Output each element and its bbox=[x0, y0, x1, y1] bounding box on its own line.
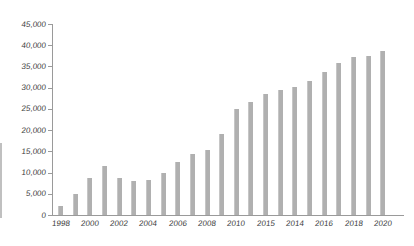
y-axis-label: 30,000 bbox=[2, 83, 47, 92]
y-axis-label: 10,000 bbox=[2, 168, 47, 177]
bar-2015 bbox=[307, 81, 312, 215]
x-axis-label: 2015 bbox=[250, 219, 281, 228]
y-axis-label: 35,000 bbox=[2, 62, 47, 71]
bar-2011 bbox=[248, 102, 253, 215]
y-axis-tick bbox=[48, 109, 52, 110]
y-axis-tick bbox=[48, 45, 52, 46]
x-axis-label: 2000 bbox=[74, 219, 105, 228]
y-axis-tick bbox=[48, 194, 52, 195]
x-axis-label: 2008 bbox=[192, 219, 223, 228]
y-axis-tick bbox=[48, 24, 52, 25]
y-axis-label: 20,000 bbox=[2, 126, 47, 135]
y-axis-label: 25,000 bbox=[2, 104, 47, 113]
bar-2009 bbox=[219, 134, 224, 215]
bar-2014 bbox=[292, 87, 297, 215]
bar-2000 bbox=[87, 178, 92, 215]
plot-area bbox=[52, 24, 404, 216]
bar-2019 bbox=[366, 56, 371, 215]
x-axis-label: 2018 bbox=[338, 219, 369, 228]
x-axis-label: 2016 bbox=[309, 219, 340, 228]
y-axis-tick bbox=[48, 151, 52, 152]
bar-2018 bbox=[351, 57, 356, 215]
y-axis-label: 5,000 bbox=[2, 189, 47, 198]
bar-2001 bbox=[102, 166, 107, 215]
bar-2017 bbox=[336, 63, 341, 215]
y-axis-label: 40,000 bbox=[2, 41, 47, 50]
bar-2012 bbox=[263, 94, 268, 215]
x-axis-label: 2002 bbox=[104, 219, 135, 228]
y-axis-label: 0 bbox=[2, 211, 47, 220]
x-axis-label: 2010 bbox=[221, 219, 252, 228]
x-axis-label: 2006 bbox=[162, 219, 193, 228]
bar-2008 bbox=[205, 150, 210, 215]
bar-2002 bbox=[117, 178, 122, 215]
x-axis-label: 2004 bbox=[133, 219, 164, 228]
y-axis-label: 45,000 bbox=[2, 20, 47, 29]
bar-2003 bbox=[131, 181, 136, 215]
y-axis-label: 15,000 bbox=[2, 147, 47, 156]
y-axis-tick bbox=[48, 66, 52, 67]
bar-2006 bbox=[175, 162, 180, 215]
y-axis-tick bbox=[48, 215, 52, 216]
y-axis-tick bbox=[48, 88, 52, 89]
x-axis-label: 2020 bbox=[367, 219, 398, 228]
x-axis-label: 2014 bbox=[279, 219, 310, 228]
bar-1999 bbox=[73, 194, 78, 215]
y-axis-tick bbox=[48, 173, 52, 174]
bar-2016 bbox=[322, 72, 327, 215]
bar-2004 bbox=[146, 180, 151, 215]
y-axis-tick bbox=[48, 130, 52, 131]
bar-2020 bbox=[380, 51, 385, 215]
bar-1998 bbox=[58, 206, 63, 215]
bar-2007 bbox=[190, 154, 195, 215]
bar-2010 bbox=[234, 109, 239, 215]
bar-2005 bbox=[161, 173, 166, 215]
x-axis-label: 1998 bbox=[45, 219, 76, 228]
bar-chart: 05,00010,00015,00020,00025,00030,00035,0… bbox=[0, 0, 414, 246]
bar-2013 bbox=[278, 90, 283, 215]
